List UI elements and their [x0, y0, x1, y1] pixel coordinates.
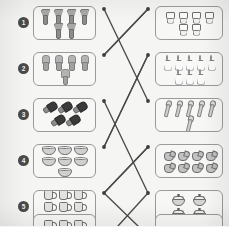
- matching-row: 1: [0, 0, 229, 46]
- partial-left-box[interactable]: [33, 214, 96, 226]
- small-cup-character-icon: [191, 12, 201, 23]
- matching-row: 3: [0, 92, 229, 138]
- bowl-icon: [58, 145, 72, 155]
- kettle-icon: [163, 150, 174, 161]
- kettle-icon: [177, 162, 188, 173]
- mug-icon: [58, 190, 71, 201]
- left-item-box[interactable]: [33, 52, 96, 86]
- kettle-icon: [205, 162, 216, 173]
- candle-icon: [163, 55, 172, 69]
- light-spoon-icon: [183, 99, 194, 115]
- bowl-icon: [74, 145, 88, 155]
- kettle-icon: [205, 150, 216, 161]
- right-item-box[interactable]: [155, 98, 223, 132]
- candle-icon: [207, 55, 216, 69]
- right-item-box[interactable]: [155, 52, 223, 86]
- left-item-group: [37, 9, 92, 37]
- kettle-icon: [177, 150, 188, 161]
- pot-knob-icon: [198, 194, 201, 196]
- candle-icon: [196, 55, 205, 69]
- bowl-icon: [58, 156, 72, 166]
- gray-bottle-icon: [79, 55, 90, 69]
- worksheet-page: 12345: [0, 0, 229, 226]
- right-item-box[interactable]: [155, 144, 223, 178]
- right-item-box[interactable]: [155, 6, 223, 40]
- candle-icon: [196, 69, 205, 83]
- covered-pot-icon: [171, 194, 186, 206]
- candle-icon: [185, 69, 194, 83]
- clothespin-clip-icon: [79, 9, 90, 23]
- row-number-badge: 4: [18, 155, 29, 166]
- gray-bottle-icon: [66, 55, 77, 69]
- mug-icon: [73, 220, 86, 227]
- light-spoon-icon: [194, 99, 205, 115]
- mug-icon: [43, 190, 56, 201]
- covered-pot-icon: [192, 194, 207, 206]
- partial-right-items: [159, 217, 219, 226]
- right-item-group: [159, 147, 219, 175]
- gray-bottle-icon: [59, 69, 70, 83]
- kettle-icon: [191, 162, 202, 173]
- clothespin-clip-icon: [66, 9, 77, 23]
- mug-icon: [43, 220, 56, 227]
- clothespin-clip-icon: [53, 9, 64, 23]
- candle-icon: [174, 69, 183, 83]
- matching-row-partial: [0, 208, 229, 226]
- matching-row: 4: [0, 138, 229, 184]
- right-item-group: [159, 101, 219, 129]
- row-number-badge: 2: [18, 63, 29, 74]
- matching-row: 2: [0, 46, 229, 92]
- light-spoon-icon: [161, 99, 172, 115]
- left-item-box[interactable]: [33, 144, 96, 178]
- small-cup-character-icon: [178, 24, 188, 35]
- candle-icon: [174, 55, 183, 69]
- left-item-group: [37, 147, 92, 175]
- right-item-group: [159, 9, 219, 37]
- bowl-icon: [74, 156, 88, 166]
- clothespin-clip-icon: [66, 23, 77, 37]
- pot-knob-icon: [177, 194, 180, 196]
- light-spoon-icon: [172, 99, 183, 115]
- left-item-box[interactable]: [33, 6, 96, 40]
- small-cup-character-icon: [178, 12, 188, 23]
- bowl-icon: [42, 156, 56, 166]
- mug-icon: [58, 220, 71, 227]
- candle-icon: [185, 55, 194, 69]
- light-spoon-icon: [183, 114, 194, 130]
- clothespin-clip-icon: [40, 9, 51, 23]
- gray-bottle-icon: [40, 55, 51, 69]
- kettle-icon: [163, 162, 174, 173]
- left-item-group: [37, 101, 92, 129]
- partial-right-box[interactable]: [155, 214, 223, 226]
- left-item-group: [37, 55, 92, 83]
- clothespin-clip-icon: [53, 23, 64, 37]
- small-cup-character-icon: [191, 24, 201, 35]
- mug-icon: [73, 190, 86, 201]
- row-number-badge: 3: [18, 109, 29, 120]
- bowl-icon: [42, 145, 56, 155]
- kettle-icon: [191, 150, 202, 161]
- small-cup-character-icon: [204, 12, 214, 23]
- bowl-icon: [58, 167, 72, 177]
- row-number-badge: 1: [18, 17, 29, 28]
- light-spoon-icon: [205, 99, 216, 115]
- small-cup-character-icon: [165, 12, 175, 23]
- right-item-group: [159, 55, 219, 83]
- left-item-box[interactable]: [33, 98, 96, 132]
- partial-left-items: [37, 217, 92, 226]
- gray-bottle-icon: [53, 55, 64, 69]
